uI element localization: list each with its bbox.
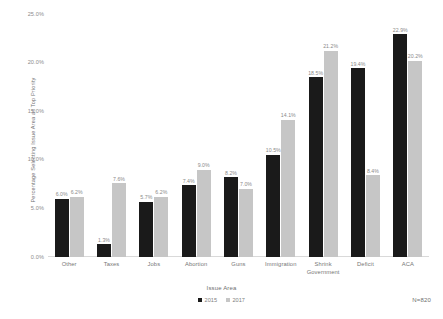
category-label-shrink-government: ShrinkGovernment	[302, 261, 344, 276]
bar-wrapper: 5.7%	[139, 14, 153, 257]
bar-group: 5.7%6.2%	[133, 14, 175, 257]
bar-group: 22.9%20.2%	[387, 14, 429, 257]
x-axis-category-labels: OtherTaxesJobsAbortionGunsImmigrationShr…	[48, 261, 429, 276]
legend-swatch-icon	[198, 298, 202, 302]
y-axis-tick-label: 15.0%	[10, 108, 44, 114]
bar-group: 19.4%8.4%	[344, 14, 386, 257]
bar-2015-guns[interactable]	[224, 177, 238, 257]
bar-wrapper: 14.1%	[281, 14, 295, 257]
category-label-immigration: Immigration	[260, 261, 302, 276]
bar-2017-abortion[interactable]	[197, 170, 211, 257]
legend-item-2015[interactable]: 2015	[198, 297, 217, 303]
y-axis-tick-label: 25.0%	[10, 11, 44, 17]
bar-value-label: 19.4%	[350, 61, 365, 67]
legend-label: 2017	[233, 297, 245, 303]
bar-value-label: 9.0%	[198, 162, 210, 168]
bar-wrapper: 8.2%	[224, 14, 238, 257]
bar-value-label: 7.0%	[240, 181, 252, 187]
sample-size-annotation: N=820	[412, 297, 431, 303]
bar-value-label: 18.5%	[308, 70, 323, 76]
bar-group: 7.4%9.0%	[175, 14, 217, 257]
bar-value-label: 22.9%	[393, 27, 408, 33]
bar-groups: 6.0%6.2%1.3%7.6%5.7%6.2%7.4%9.0%8.2%7.0%…	[48, 14, 429, 257]
bar-2017-immigration[interactable]	[281, 120, 295, 257]
bar-wrapper: 6.0%	[55, 14, 69, 257]
plot-area: 0.0%5.0%10.0%15.0%20.0%25.0% 6.0%6.2%1.3…	[48, 14, 429, 257]
category-label-other: Other	[48, 261, 90, 276]
bar-chart: Percentage Selecting Issue Area as Top P…	[0, 0, 443, 319]
bar-wrapper: 7.6%	[112, 14, 126, 257]
category-label-abortion: Abortion	[175, 261, 217, 276]
bar-value-label: 10.5%	[266, 147, 281, 153]
legend-label: 2015	[205, 297, 217, 303]
bar-value-label: 7.4%	[183, 178, 195, 184]
bar-value-label: 5.7%	[140, 194, 152, 200]
bar-2015-deficit[interactable]	[351, 68, 365, 257]
bar-group: 6.0%6.2%	[48, 14, 90, 257]
category-label-jobs: Jobs	[133, 261, 175, 276]
bar-wrapper: 6.2%	[154, 14, 168, 257]
bar-2017-deficit[interactable]	[366, 175, 380, 257]
bar-group: 18.5%21.2%	[302, 14, 344, 257]
bar-2017-other[interactable]	[70, 197, 84, 257]
bar-wrapper: 7.0%	[239, 14, 253, 257]
bar-wrapper: 20.2%	[408, 14, 422, 257]
bar-value-label: 8.4%	[367, 168, 379, 174]
bar-2015-other[interactable]	[55, 199, 69, 257]
bar-value-label: 21.2%	[323, 43, 338, 49]
bar-wrapper: 6.2%	[70, 14, 84, 257]
bar-wrapper: 9.0%	[197, 14, 211, 257]
bar-2015-immigration[interactable]	[266, 155, 280, 257]
legend-swatch-icon	[226, 298, 230, 302]
y-axis-tick-label: 5.0%	[10, 205, 44, 211]
bar-2015-shrink-government[interactable]	[309, 77, 323, 257]
bar-2017-shrink-government[interactable]	[324, 51, 338, 257]
y-axis-tick-label: 0.0%	[10, 254, 44, 260]
bar-2017-aca[interactable]	[408, 61, 422, 257]
bar-value-label: 8.2%	[225, 170, 237, 176]
y-axis-tick-label: 10.0%	[10, 156, 44, 162]
bar-2015-jobs[interactable]	[139, 202, 153, 257]
category-label-taxes: Taxes	[90, 261, 132, 276]
bar-2017-guns[interactable]	[239, 189, 253, 257]
bar-value-label: 6.2%	[155, 189, 167, 195]
bar-wrapper: 21.2%	[324, 14, 338, 257]
bar-2017-taxes[interactable]	[112, 183, 126, 257]
category-label-aca: ACA	[387, 261, 429, 276]
bar-wrapper: 22.9%	[393, 14, 407, 257]
bar-value-label: 6.2%	[71, 189, 83, 195]
bar-value-label: 14.1%	[281, 112, 296, 118]
bar-value-label: 7.6%	[113, 176, 125, 182]
bar-wrapper: 8.4%	[366, 14, 380, 257]
y-axis-tick-label: 20.0%	[10, 59, 44, 65]
chart-legend: 20152017	[0, 297, 443, 303]
bar-wrapper: 19.4%	[351, 14, 365, 257]
bar-group: 1.3%7.6%	[90, 14, 132, 257]
category-label-deficit: Deficit	[344, 261, 386, 276]
bar-wrapper: 10.5%	[266, 14, 280, 257]
bar-2015-taxes[interactable]	[97, 244, 111, 257]
bar-value-label: 6.0%	[56, 191, 68, 197]
bar-2017-jobs[interactable]	[154, 197, 168, 257]
category-label-guns: Guns	[217, 261, 259, 276]
bar-value-label: 20.2%	[408, 53, 423, 59]
bar-wrapper: 18.5%	[309, 14, 323, 257]
bar-group: 10.5%14.1%	[260, 14, 302, 257]
bar-wrapper: 7.4%	[182, 14, 196, 257]
legend-item-2017[interactable]: 2017	[226, 297, 245, 303]
bar-2015-abortion[interactable]	[182, 185, 196, 257]
bar-value-label: 1.3%	[98, 237, 110, 243]
bar-wrapper: 1.3%	[97, 14, 111, 257]
bar-2015-aca[interactable]	[393, 34, 407, 257]
bar-group: 8.2%7.0%	[217, 14, 259, 257]
x-axis-title: Issue Area	[0, 285, 443, 291]
